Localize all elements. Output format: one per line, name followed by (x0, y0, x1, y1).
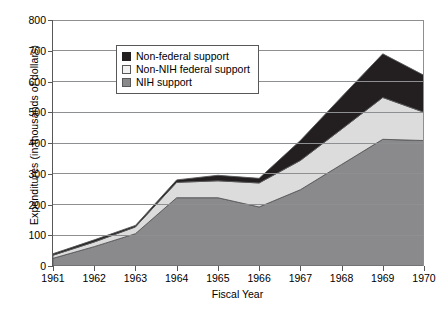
x-tick-1963 (135, 266, 136, 271)
y-tick-label-0: 0 (40, 261, 46, 272)
y-tick-700 (48, 51, 53, 52)
gridline-500 (53, 112, 424, 113)
y-tick-label-300: 300 (28, 169, 46, 180)
gridline-800 (53, 20, 424, 21)
y-tick-800 (48, 20, 53, 21)
plot-area: 0100200300400500600700800 19611962196319… (52, 20, 423, 266)
y-tick-300 (48, 174, 53, 175)
legend-swatch-icon-1 (122, 65, 131, 74)
x-tick-label-1967: 1967 (289, 272, 312, 284)
y-tick-600 (48, 82, 53, 83)
x-tick-1967 (300, 266, 301, 271)
y-tick-label-500: 500 (28, 107, 46, 118)
x-tick-1965 (218, 266, 219, 271)
legend-item-1: Non-NIH federal support (122, 63, 250, 76)
gridline-100 (53, 235, 424, 236)
legend-item-2: NIH support (122, 76, 250, 89)
y-tick-100 (48, 235, 53, 236)
y-tick-label-400: 400 (28, 138, 46, 149)
legend-item-0: Non-federal support (122, 50, 250, 63)
y-tick-400 (48, 143, 53, 144)
x-tick-label-1965: 1965 (206, 272, 229, 284)
gridline-400 (53, 143, 424, 144)
x-tick-1962 (94, 266, 95, 271)
y-tick-label-200: 200 (28, 199, 46, 210)
y-tick-label-600: 600 (28, 76, 46, 87)
legend-label-2: NIH support (136, 77, 192, 88)
x-tick-label-1966: 1966 (247, 272, 270, 284)
x-tick-1966 (259, 266, 260, 271)
y-tick-200 (48, 205, 53, 206)
x-tick-label-1964: 1964 (165, 272, 188, 284)
legend-label-0: Non-federal support (136, 51, 229, 62)
chart-legend: Non-federal supportNon-NIH federal suppo… (116, 45, 259, 94)
x-tick-label-1963: 1963 (124, 272, 147, 284)
plot-right-border (423, 20, 424, 266)
x-tick-1964 (177, 266, 178, 271)
gridline-300 (53, 173, 424, 174)
x-tick-1970 (424, 266, 425, 271)
legend-swatch-icon-0 (122, 52, 131, 61)
stacked-area-chart: Expenditures (in thousands of dollars) 0… (0, 0, 439, 310)
x-tick-1969 (383, 266, 384, 271)
x-tick-label-1969: 1969 (371, 272, 394, 284)
y-tick-label-800: 800 (28, 15, 46, 26)
x-tick-label-1968: 1968 (330, 272, 353, 284)
legend-swatch-icon-2 (122, 78, 131, 87)
x-tick-1961 (53, 266, 54, 271)
y-tick-500 (48, 112, 53, 113)
legend-label-1: Non-NIH federal support (136, 64, 250, 75)
x-tick-label-1961: 1961 (41, 272, 64, 284)
y-tick-label-100: 100 (28, 230, 46, 241)
x-tick-1968 (342, 266, 343, 271)
gridline-200 (53, 204, 424, 205)
x-tick-label-1970: 1970 (412, 272, 435, 284)
y-tick-label-700: 700 (28, 46, 46, 57)
x-tick-label-1962: 1962 (83, 272, 106, 284)
x-axis-title: Fiscal Year (52, 288, 423, 300)
